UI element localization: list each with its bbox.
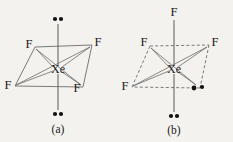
figure-container: F F F F Xe (a) <box>0 0 233 142</box>
bond-xe-f-topright <box>178 47 207 67</box>
lone-pair-top <box>53 17 63 21</box>
atom-label-f-top: F <box>171 5 178 19</box>
lone-pair-bottom <box>169 114 179 118</box>
lone-pair-dot <box>200 85 204 89</box>
atom-label-xe-center: Xe <box>167 62 181 76</box>
caption-a: (a) <box>52 123 65 136</box>
atom-label-f-topright: F <box>95 35 102 49</box>
atom-label-f-topleft: F <box>141 35 148 49</box>
atom-label-xe-center: Xe <box>51 62 65 76</box>
lone-pair-dot <box>59 112 63 116</box>
lone-pair-dot <box>169 114 173 118</box>
atom-label-f-topleft: F <box>26 37 33 51</box>
lone-pair-dot <box>175 114 179 118</box>
bond-xe-f-topright <box>62 47 90 67</box>
atom-label-f-bottomleft: F <box>122 79 129 93</box>
lone-pair-dot <box>59 17 63 21</box>
atom-label-f-topright: F <box>212 35 219 49</box>
caption-b: (b) <box>167 124 181 137</box>
lone-pair-bottom <box>53 112 63 116</box>
lone-pair-dot <box>53 17 57 21</box>
atom-label-f-bottomright: F <box>74 81 81 95</box>
lone-pair-dot <box>192 86 197 91</box>
diagram-a: F F F F Xe (a) <box>0 0 116 142</box>
edge-topleft-topright <box>150 45 209 46</box>
bond-xe-f-bottomleft <box>133 71 169 86</box>
diagram-b: F F F F Xe (b) <box>116 0 233 142</box>
edge-bottomright-bottomleft <box>132 87 200 88</box>
lone-pair-dot <box>53 112 57 116</box>
edge-bottomleft-topleft <box>132 46 150 87</box>
atom-label-f-bottomleft: F <box>5 78 12 92</box>
edge-topright-bottomright <box>200 45 209 88</box>
edge-topleft-topright <box>35 45 92 47</box>
